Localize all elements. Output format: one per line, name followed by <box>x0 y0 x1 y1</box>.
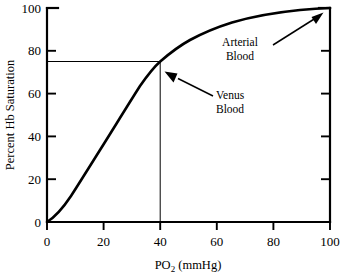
y-tick-label-80: 80 <box>28 43 41 58</box>
venus-blood-label-line1: Venus <box>216 89 245 101</box>
x-axis-ticks <box>47 222 330 230</box>
y-tick-labels: 0 20 40 60 80 100 <box>22 1 42 230</box>
venus-blood-arrowhead <box>165 72 178 83</box>
x-tick-label-0: 0 <box>44 234 51 249</box>
venus-blood-annotation: Venus Blood <box>165 72 245 116</box>
y-tick-label-20: 20 <box>28 172 41 187</box>
y-axis-ticks-right <box>321 51 330 179</box>
y-tick-label-100: 100 <box>22 1 42 16</box>
venus-blood-label-line2: Blood <box>216 103 244 115</box>
y-tick-label-40: 40 <box>28 129 41 144</box>
y-tick-label-0: 0 <box>35 215 42 230</box>
arterial-blood-leader-line <box>273 19 315 46</box>
x-tick-labels: 0 20 40 60 80 100 <box>44 234 340 249</box>
y-axis-ticks <box>47 8 56 222</box>
x-tick-label-100: 100 <box>320 234 340 249</box>
oxygen-hemoglobin-dissociation-chart: Venus Blood Arterial Blood 0 20 40 60 80… <box>0 0 349 277</box>
arterial-blood-arrowhead <box>312 13 324 25</box>
x-axis-title-unit: (mmHg) <box>175 258 221 272</box>
arterial-blood-label-line1: Arterial <box>222 36 258 48</box>
arterial-blood-label-line2: Blood <box>226 50 254 62</box>
chart-svg: Venus Blood Arterial Blood 0 20 40 60 80… <box>0 0 349 277</box>
x-tick-label-60: 60 <box>210 234 223 249</box>
x-axis-title-base: PO <box>155 258 171 272</box>
y-tick-label-60: 60 <box>28 86 41 101</box>
venus-blood-leader-line <box>178 79 213 97</box>
x-tick-label-20: 20 <box>97 234 110 249</box>
y-axis-title: Percent Hb Saturation <box>3 59 17 170</box>
dissociation-curve <box>47 8 330 222</box>
x-tick-label-40: 40 <box>154 234 167 249</box>
x-axis-title: PO2 (mmHg) <box>155 258 222 274</box>
reference-lines <box>47 62 160 223</box>
x-tick-label-80: 80 <box>267 234 280 249</box>
